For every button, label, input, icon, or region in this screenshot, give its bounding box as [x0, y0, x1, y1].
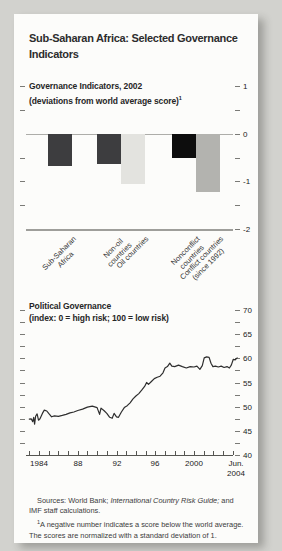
- figure-card: Sub-Saharan Africa: Selected Governance …: [14, 14, 258, 543]
- x-tick: [175, 451, 176, 455]
- y-tick-left: [20, 346, 25, 347]
- x-tick: [155, 451, 156, 455]
- y-tick-right: [235, 181, 240, 182]
- bar-chart-header: Governance Indicators, 2002 (deviations …: [29, 80, 229, 107]
- y-tick-left: [20, 395, 25, 396]
- line-chart-subtitle: (index: 0 = high risk; 100 = low risk): [29, 312, 229, 324]
- x-tick: [136, 451, 137, 455]
- x-tick: [223, 451, 224, 455]
- x-tick: [39, 451, 40, 455]
- y-tick-label: 0: [243, 131, 247, 139]
- x-tick: [126, 451, 127, 455]
- y-tick-label: 55: [243, 380, 252, 388]
- y-tick-left: [20, 86, 25, 87]
- bar-chart-title: Governance Indicators, 2002: [29, 80, 229, 92]
- bar-category-label: Sub-SaharanAfrica: [41, 235, 84, 278]
- sources-italic: International Country Risk Guide;: [110, 496, 219, 505]
- figure-title-line1: Sub-Saharan Africa: Selected Governance: [29, 32, 238, 44]
- sources-note: Sources: World Bank; International Count…: [29, 496, 245, 517]
- figure-title: Sub-Saharan Africa: Selected Governance …: [29, 30, 249, 62]
- y-tick-right: [235, 443, 240, 444]
- y-tick-left: [20, 310, 25, 311]
- y-tick-right: [235, 110, 240, 111]
- y-tick-left: [20, 370, 25, 371]
- x-tick: [194, 451, 195, 455]
- x-axis-end-label: Jun.2004: [221, 459, 251, 479]
- y-tick-right: [235, 407, 240, 408]
- y-tick-right: [235, 370, 240, 371]
- y-tick-right: [235, 229, 240, 230]
- y-tick-right: [235, 346, 240, 347]
- x-tick: [117, 451, 118, 455]
- y-tick-label: -1: [243, 178, 250, 186]
- y-tick-left: [20, 158, 25, 159]
- x-tick: [233, 451, 234, 455]
- x-tick: [107, 451, 108, 455]
- y-tick-label: -2: [243, 226, 250, 234]
- y-tick-left: [20, 431, 25, 432]
- x-tick: [204, 451, 205, 455]
- footnote: 1A negative number indicates a score bel…: [29, 517, 245, 541]
- y-tick-left: [20, 205, 25, 206]
- y-tick-left: [20, 383, 25, 384]
- x-axis-end-label-line: Jun.: [221, 459, 251, 469]
- y-tick-right: [235, 322, 240, 323]
- y-tick-right: [235, 205, 240, 206]
- x-tick-label: 92: [102, 459, 132, 469]
- y-tick-right: [235, 86, 240, 87]
- x-tick: [58, 451, 59, 455]
- bar: [121, 134, 145, 184]
- y-tick-label: 70: [243, 307, 252, 315]
- line-chart-title: Political Governance: [29, 300, 229, 312]
- y-tick-right: [235, 383, 240, 384]
- figure-notes: Sources: World Bank; International Count…: [29, 496, 245, 541]
- footnote-marker: 1: [179, 95, 182, 101]
- x-tick: [97, 451, 98, 455]
- y-tick-label: 45: [243, 428, 252, 436]
- y-tick-right: [235, 358, 240, 359]
- x-tick: [49, 451, 50, 455]
- x-tick-label: 96: [140, 459, 170, 469]
- y-tick-left: [20, 407, 25, 408]
- y-tick-right: [235, 134, 240, 135]
- x-tick: [184, 451, 185, 455]
- x-tick: [213, 451, 214, 455]
- y-tick-right: [235, 158, 240, 159]
- x-tick-label: 88: [63, 459, 93, 469]
- y-tick-right: [235, 431, 240, 432]
- y-tick-left: [20, 110, 25, 111]
- bar: [48, 134, 72, 166]
- y-tick-left: [20, 419, 25, 420]
- line-chart-header: Political Governance (index: 0 = high ri…: [29, 300, 229, 324]
- y-tick-left: [20, 181, 25, 182]
- x-tick: [78, 451, 79, 455]
- x-tick-label: 1984: [24, 459, 54, 469]
- y-tick-label: 1: [243, 83, 247, 91]
- x-tick: [29, 451, 30, 455]
- bar: [97, 134, 121, 164]
- y-tick-label: 50: [243, 404, 252, 412]
- y-tick-label: 60: [243, 355, 252, 363]
- y-tick-left: [20, 322, 25, 323]
- y-tick-right: [235, 455, 240, 456]
- x-axis-line: [26, 455, 233, 456]
- x-tick: [87, 451, 88, 455]
- bar: [172, 134, 196, 158]
- bar-chart-bottom-border: [26, 229, 233, 231]
- y-tick-left: [20, 334, 25, 335]
- y-tick-right: [235, 395, 240, 396]
- x-axis-end-label-line: 2004: [221, 469, 251, 479]
- y-tick-left: [20, 443, 25, 444]
- y-tick-label: 65: [243, 331, 252, 339]
- y-tick-right: [235, 334, 240, 335]
- x-tick: [68, 451, 69, 455]
- x-tick-label: 2000: [179, 459, 209, 469]
- y-tick-right: [235, 419, 240, 420]
- y-tick-right: [235, 310, 240, 311]
- y-tick-left: [20, 358, 25, 359]
- figure-title-line2: Indicators: [29, 48, 79, 60]
- x-tick: [146, 451, 147, 455]
- bar-chart-subtitle: (deviations from world average score)1: [29, 92, 229, 107]
- bar: [196, 134, 220, 192]
- x-tick: [165, 451, 166, 455]
